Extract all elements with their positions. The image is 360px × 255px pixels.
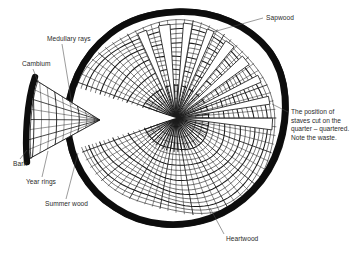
note-line-1: The position of — [291, 108, 349, 117]
tree-cross-section-figure: Sapwood Medullary rays Cambium Bark Year… — [0, 0, 360, 255]
label-heartwood: Heartwood — [226, 235, 258, 243]
label-sapwood: Sapwood — [266, 14, 294, 22]
faint-caption-strip — [12, 244, 132, 253]
wedge-ray-5 — [31, 120, 101, 121]
note-line-4: Note the waste. — [291, 134, 349, 143]
note-line-3: quarter – quartered. — [291, 125, 349, 134]
label-summer-wood: Summer wood — [45, 200, 88, 208]
note-line-2: staves cut on the — [291, 117, 349, 126]
leader-year-rings — [42, 151, 48, 177]
label-bark: Bark — [13, 160, 27, 168]
note-staves-quartered: The position of staves cut on the quarte… — [291, 108, 349, 142]
label-medullary-rays: Medullary rays — [47, 35, 91, 43]
label-year-rings: Year rings — [26, 178, 56, 186]
label-cambium: Cambium — [22, 60, 51, 68]
trunk-body — [66, 10, 287, 226]
